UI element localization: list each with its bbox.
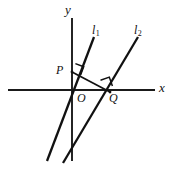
- line-l2: [63, 37, 138, 163]
- line-label-l1: l1: [92, 24, 99, 36]
- line-l1: [47, 37, 94, 161]
- point-label-q: Q: [109, 92, 118, 104]
- geometry-figure: y x P O Q l1 l2: [0, 0, 172, 169]
- geometry-canvas: [0, 0, 172, 169]
- x-axis-label: x: [159, 81, 165, 94]
- point-label-p: P: [56, 64, 63, 76]
- line-label-l1-subscript: 1: [96, 29, 100, 38]
- line-label-l2: l2: [134, 24, 141, 36]
- vertex-dot-p: [71, 71, 74, 74]
- line-label-l2-base: l: [134, 23, 137, 37]
- origin-label: O: [77, 92, 86, 104]
- y-axis-label: y: [65, 3, 71, 16]
- line-label-l2-subscript: 2: [138, 29, 142, 38]
- line-label-l1-base: l: [92, 23, 95, 37]
